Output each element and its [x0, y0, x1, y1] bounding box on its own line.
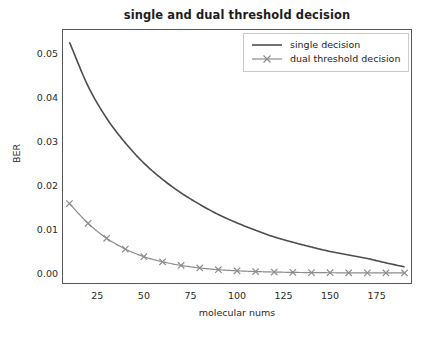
x-tick-label: 150: [321, 290, 339, 301]
chart-figure: single and dual threshold decision BER 0…: [0, 0, 429, 342]
x-tick-label: 25: [91, 290, 103, 301]
x-tick-label: 75: [184, 290, 196, 301]
legend-entry-dual-threshold-decision: dual threshold decision: [250, 52, 402, 66]
legend-label-single-decision: single decision: [290, 38, 360, 52]
y-tick-label: 0.02: [24, 180, 58, 191]
legend-label-dual-threshold-decision: dual threshold decision: [290, 52, 400, 66]
x-tick-label: 50: [138, 290, 150, 301]
y-axis-tick-labels: 0.000.010.020.030.040.05: [18, 29, 58, 284]
legend-line-sample-solid: [250, 38, 284, 52]
x-tick-label: 125: [274, 290, 292, 301]
y-tick-label: 0.01: [24, 224, 58, 235]
x-tick-label: 175: [368, 290, 386, 301]
x-axis-label: molecular nums: [62, 307, 412, 318]
y-tick-label: 0.00: [24, 268, 58, 279]
y-tick-label: 0.05: [24, 48, 58, 59]
x-tick-label: 100: [228, 290, 246, 301]
chart-legend: single decision dual threshold decision: [243, 33, 409, 72]
chart-title: single and dual threshold decision: [62, 8, 412, 22]
y-tick-label: 0.03: [24, 136, 58, 147]
x-axis-tick-labels: 255075100125150175: [62, 290, 412, 306]
legend-entry-single-decision: single decision: [250, 38, 402, 52]
y-tick-label: 0.04: [24, 92, 58, 103]
legend-line-sample-marker: [250, 52, 284, 66]
